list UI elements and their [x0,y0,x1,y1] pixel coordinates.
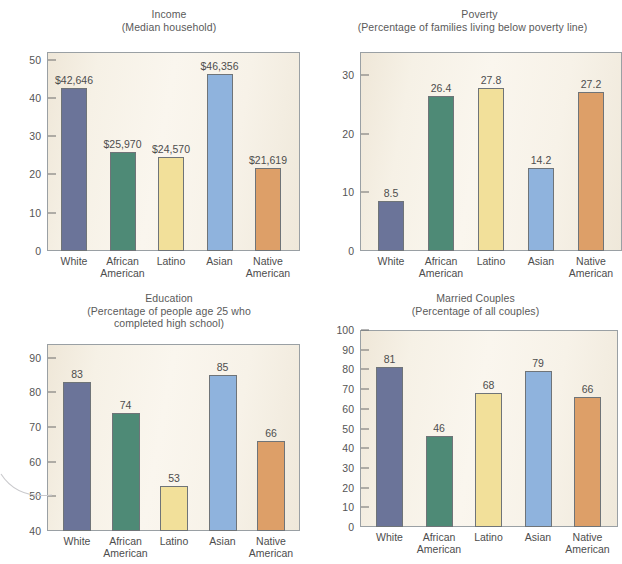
x-axis-label-married-couples-1: African American [417,532,461,555]
y-axis-label-married-couples-8: 80 [326,364,354,375]
y-axis-tick-poverty-3 [361,75,369,76]
y-axis-label-poverty-0: 0 [326,246,354,257]
bar-poverty-1 [428,96,454,251]
y-axis-label-income-3: 30 [13,131,41,142]
y-axis-label-married-couples-7: 70 [326,384,354,395]
bar-value-married-couples-2: 68 [483,380,495,391]
bar-value-poverty-3: 14.2 [531,155,551,166]
x-axis-label-poverty-2: Latino [477,256,506,268]
bar-poverty-4 [578,92,604,251]
bar-value-income-2: $24,570 [152,144,190,155]
x-axis-label-poverty-3: Asian [528,256,554,268]
bar-education-1 [112,413,140,531]
x-axis-label-poverty-0: White [378,256,405,268]
y-axis-tick-income-2 [48,174,56,175]
x-axis-label-income-4: Native American [246,256,290,279]
y-axis-tick-married-couples-9 [361,349,369,350]
bar-poverty-2 [478,88,504,251]
bar-value-income-0: $42,646 [55,75,93,86]
bar-value-income-3: $46,356 [201,61,239,72]
y-axis-label-income-0: 0 [13,246,41,257]
y-axis-label-married-couples-1: 10 [326,502,354,513]
chart-subtitle-income: (Median household) [28,21,310,34]
bar-value-education-2: 53 [168,473,180,484]
y-axis-label-education-0: 40 [13,526,41,537]
y-axis-tick-education-1 [48,496,56,497]
y-axis-label-education-1: 50 [13,491,41,502]
bar-value-education-4: 66 [265,428,277,439]
bar-value-married-couples-4: 66 [582,384,594,395]
y-axis-label-poverty-2: 20 [326,128,354,139]
y-axis-label-married-couples-6: 60 [326,403,354,414]
x-axis-label-married-couples-2: Latino [474,532,503,544]
bar-married-couples-2 [475,393,502,527]
bar-poverty-3 [528,168,554,251]
bar-value-poverty-1: 26.4 [431,83,451,94]
y-axis-label-married-couples-4: 40 [326,443,354,454]
y-axis-label-poverty-3: 30 [326,70,354,81]
bar-income-1 [110,152,136,251]
x-axis-label-married-couples-0: White [376,532,403,544]
y-axis-label-married-couples-9: 90 [326,344,354,355]
bar-value-education-0: 83 [71,369,83,380]
chart-panel-income: Income (Median household) 01020304050$42… [0,8,310,284]
x-axis-label-education-3: Asian [209,536,235,548]
y-axis-tick-poverty-2 [361,133,369,134]
chart-title-poverty: Poverty [340,8,619,21]
chart-subtitle-married-couples: (Percentage of all couples) [332,305,619,318]
bar-value-income-4: $21,619 [249,155,287,166]
x-axis-label-education-1: African American [103,536,147,559]
bar-value-income-1: $25,970 [104,139,142,150]
bar-education-4 [257,441,285,531]
x-axis-label-married-couples-4: Native American [565,532,609,555]
x-axis-label-education-4: Native American [249,536,293,559]
y-axis-tick-married-couples-5 [361,428,369,429]
y-axis-label-income-4: 40 [13,92,41,103]
bar-income-3 [207,74,233,251]
x-axis-label-poverty-4: Native American [569,256,613,279]
y-axis-label-income-2: 20 [13,169,41,180]
y-axis-tick-income-5 [48,59,56,60]
y-axis-label-education-5: 90 [13,352,41,363]
y-axis-tick-married-couples-6 [361,408,369,409]
plot-wrap-married-couples: 010203040506070809010081White46African A… [318,324,619,564]
bar-married-couples-1 [426,436,453,527]
y-axis-label-income-5: 50 [13,54,41,65]
bar-education-0 [63,382,91,531]
plot-wrap-income: 01020304050$42,646White$25,970African Am… [0,44,310,284]
y-axis-tick-education-2 [48,461,56,462]
y-axis-label-income-1: 10 [13,207,41,218]
y-axis-label-poverty-1: 10 [326,187,354,198]
y-axis-tick-poverty-1 [361,192,369,193]
x-axis-label-education-2: Latino [160,536,189,548]
bar-married-couples-0 [376,367,403,527]
bar-education-3 [209,375,237,531]
chart-panel-education: Education (Percentage of people age 25 w… [0,292,310,564]
y-axis-tick-married-couples-3 [361,467,369,468]
y-axis-tick-married-couples-1 [361,507,369,508]
x-axis-label-married-couples-3: Asian [525,532,551,544]
x-axis-label-income-0: White [61,256,88,268]
y-axis-label-married-couples-2: 20 [326,482,354,493]
y-axis-tick-married-couples-8 [361,369,369,370]
y-axis-tick-married-couples-4 [361,448,369,449]
bar-value-education-1: 74 [120,400,132,411]
bar-poverty-0 [378,201,404,251]
bar-value-married-couples-1: 46 [433,423,445,434]
y-axis-tick-income-3 [48,136,56,137]
bar-income-2 [158,157,184,251]
y-axis-label-married-couples-3: 30 [326,462,354,473]
x-axis-label-poverty-1: African American [419,256,463,279]
y-axis-label-education-2: 60 [13,456,41,467]
y-axis-tick-married-couples-7 [361,389,369,390]
plot-wrap-poverty: 01020308.5White26.4African American27.8L… [318,44,619,284]
chart-title-married-couples: Married Couples [332,292,619,305]
bar-married-couples-3 [525,371,552,527]
y-axis-tick-married-couples-2 [361,487,369,488]
bar-income-0 [61,88,87,251]
y-axis-label-education-4: 80 [13,387,41,398]
x-axis-label-income-3: Asian [206,256,232,268]
y-axis-tick-income-4 [48,97,56,98]
y-axis-label-married-couples-0: 0 [326,522,354,533]
chart-title-income: Income [28,8,310,21]
